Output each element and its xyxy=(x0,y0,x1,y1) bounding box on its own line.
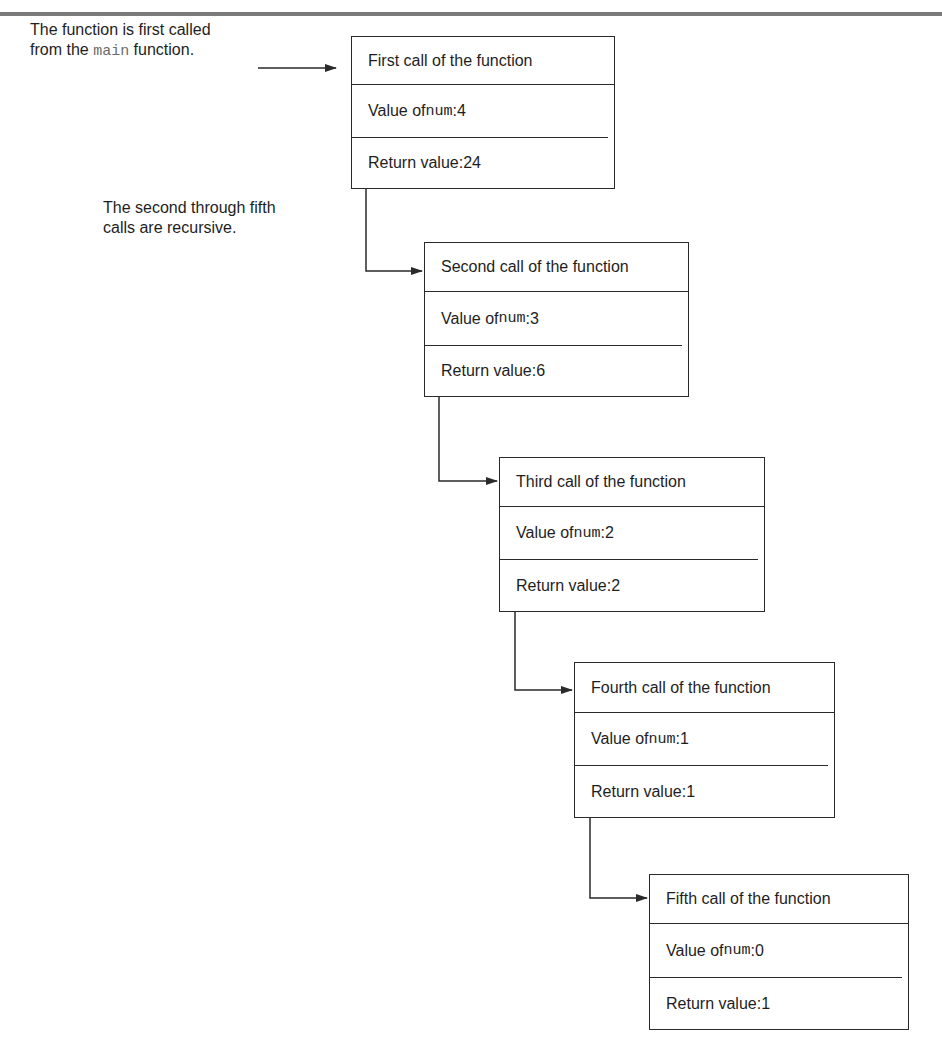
num-value-row: Value of num: 3 xyxy=(425,292,688,345)
call-title: Third call of the function xyxy=(500,458,764,506)
arrow-fourth-to-fifth xyxy=(590,817,647,898)
num-value-row: Value of num: 0 xyxy=(650,924,908,977)
return-label: Return value: xyxy=(441,362,536,380)
var-name: num xyxy=(426,103,453,120)
value-label: Value of xyxy=(441,310,499,328)
call-title-text: First call of the function xyxy=(368,52,533,70)
var-name: num xyxy=(724,942,751,959)
recursive-annotation: The second through fifth calls are recur… xyxy=(103,198,276,238)
return-value: 6 xyxy=(536,362,545,380)
call-title-text: Fifth call of the function xyxy=(666,890,831,908)
var-name: num xyxy=(649,731,676,748)
num-value: 3 xyxy=(530,310,539,328)
main-code: main xyxy=(93,43,129,60)
var-name: num xyxy=(574,525,601,542)
arrow-third-to-fourth xyxy=(515,611,572,690)
arrow-first-to-second xyxy=(366,188,422,271)
annotation-text: from the xyxy=(30,41,93,58)
call-title: Fourth call of the function xyxy=(575,663,834,712)
value-label: Value of xyxy=(591,730,649,748)
annotation-line-2: calls are recursive. xyxy=(103,218,276,238)
call-title: First call of the function xyxy=(352,37,614,84)
first-call-annotation: The function is first called from the ma… xyxy=(30,20,211,62)
num-value-row: Value of num: 4 xyxy=(352,85,614,137)
return-value: 2 xyxy=(611,577,620,595)
num-value: 1 xyxy=(680,730,689,748)
return-label: Return value: xyxy=(516,577,611,595)
return-value: 1 xyxy=(686,783,695,801)
call-title-text: Second call of the function xyxy=(441,258,629,276)
top-rule xyxy=(0,12,942,16)
num-value-row: Value of num: 2 xyxy=(500,507,764,559)
annotation-text: function. xyxy=(129,41,194,58)
value-label: Value of xyxy=(666,942,724,960)
return-value-row: Return value: 6 xyxy=(425,346,688,396)
num-value: 4 xyxy=(457,102,466,120)
return-label: Return value: xyxy=(666,995,761,1013)
call-title: Second call of the function xyxy=(425,243,688,291)
return-value: 1 xyxy=(761,995,770,1013)
num-value: 2 xyxy=(605,524,614,542)
call-box-5: Fifth call of the function Value of num:… xyxy=(649,874,909,1030)
value-label: Value of xyxy=(516,524,574,542)
annotation-line-1: The second through fifth xyxy=(103,198,276,218)
return-value: 24 xyxy=(463,154,481,172)
call-box-4: Fourth call of the function Value of num… xyxy=(574,662,835,818)
call-box-2: Second call of the function Value of num… xyxy=(424,242,689,397)
return-value-row: Return value: 1 xyxy=(575,766,834,817)
return-label: Return value: xyxy=(591,783,686,801)
num-value-row: Value of num: 1 xyxy=(575,713,834,765)
call-title: Fifth call of the function xyxy=(650,875,908,923)
call-title-text: Fourth call of the function xyxy=(591,679,771,697)
var-name: num xyxy=(499,310,526,327)
call-box-1: First call of the function Value of num:… xyxy=(351,36,615,189)
return-value-row: Return value: 1 xyxy=(650,978,908,1029)
return-label: Return value: xyxy=(368,154,463,172)
return-value-row: Return value: 24 xyxy=(352,138,614,188)
call-box-3: Third call of the function Value of num:… xyxy=(499,457,765,612)
call-title-text: Third call of the function xyxy=(516,473,686,491)
annotation-line-1: The function is first called xyxy=(30,20,211,40)
annotation-line-2: from the main function. xyxy=(30,40,211,62)
num-value: 0 xyxy=(755,942,764,960)
value-label: Value of xyxy=(368,102,426,120)
arrow-second-to-third xyxy=(439,396,497,481)
return-value-row: Return value: 2 xyxy=(500,560,764,611)
